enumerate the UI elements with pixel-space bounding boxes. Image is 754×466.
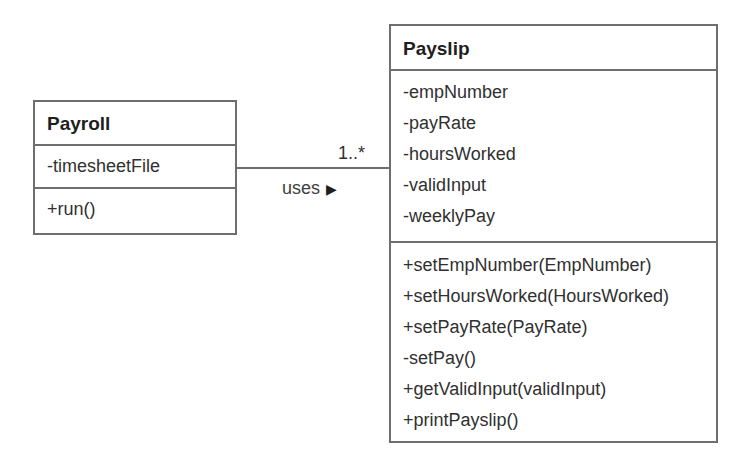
association-line	[237, 167, 389, 169]
payslip-operation: +setEmpNumber(EmpNumber)	[391, 250, 716, 281]
payslip-class: Payslip -empNumber -payRate -hoursWorked…	[389, 24, 718, 443]
payslip-name-section: Payslip	[391, 26, 716, 71]
payslip-operation: -setPay()	[391, 343, 716, 374]
payroll-attributes-section: -timesheetFile	[35, 146, 235, 189]
payroll-operations-section: +run()	[35, 189, 235, 229]
association-label-text: uses	[282, 178, 320, 198]
association-multiplicity: 1..*	[338, 143, 365, 164]
payslip-operation: +getValidInput(validInput)	[391, 374, 716, 405]
payroll-class-name: Payroll	[35, 102, 235, 146]
payslip-attribute: -hoursWorked	[391, 139, 716, 170]
payslip-attribute: -weeklyPay	[391, 201, 716, 232]
payslip-operation: +setHoursWorked(HoursWorked)	[391, 281, 716, 312]
payslip-operation: +setPayRate(PayRate)	[391, 312, 716, 343]
payroll-operation: +run()	[35, 189, 235, 229]
payslip-attribute: -empNumber	[391, 77, 716, 108]
association-label: uses▶	[282, 178, 337, 199]
payroll-attribute: -timesheetFile	[35, 146, 235, 187]
payslip-attribute: -validInput	[391, 170, 716, 201]
payslip-attributes-section: -empNumber -payRate -hoursWorked -validI…	[391, 71, 716, 243]
payslip-operation: +printPayslip()	[391, 405, 716, 436]
payroll-name-section: Payroll	[35, 102, 235, 146]
direction-arrow-icon: ▶	[326, 181, 337, 197]
payslip-class-name: Payslip	[391, 26, 716, 71]
payslip-attribute: -payRate	[391, 108, 716, 139]
payroll-class: Payroll -timesheetFile +run()	[33, 100, 237, 235]
payslip-operations-section: +setEmpNumber(EmpNumber) +setHoursWorked…	[391, 243, 716, 436]
